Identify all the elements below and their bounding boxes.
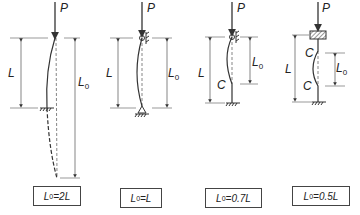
length-label: L <box>8 67 15 79</box>
length-label: L <box>198 67 205 79</box>
inflection-point-label: C <box>217 79 226 91</box>
inflection-point-bottom-label: C <box>303 80 312 92</box>
formula-box: L0=0.7L <box>205 188 262 208</box>
load-label: P <box>237 2 245 14</box>
panel-fixed-pinned <box>205 2 258 106</box>
panel-fixed-fixed <box>292 2 345 105</box>
effective-length-label: L0 <box>78 76 89 91</box>
formula-box: L0=2L <box>33 186 81 206</box>
load-label: P <box>322 2 330 14</box>
diagram-graphics <box>0 0 360 215</box>
length-label: L <box>106 67 113 79</box>
load-label: P <box>147 2 155 14</box>
column-effective-length-diagram: P L L0 L0=2L P L L0 L0=L P L L0 C L0=0.7… <box>0 0 360 215</box>
effective-length-label: L0 <box>252 56 263 71</box>
length-label: L <box>285 63 292 75</box>
formula-box: L0=L <box>120 188 162 208</box>
inflection-point-top-label: C <box>305 47 314 59</box>
effective-length-label: L0 <box>336 62 347 77</box>
effective-length-label: L0 <box>168 67 179 82</box>
load-label: P <box>60 2 68 14</box>
panel-pinned-pinned <box>110 2 172 117</box>
panel-fixed-free <box>10 2 80 178</box>
formula-box: L0=0.5L <box>292 186 350 206</box>
